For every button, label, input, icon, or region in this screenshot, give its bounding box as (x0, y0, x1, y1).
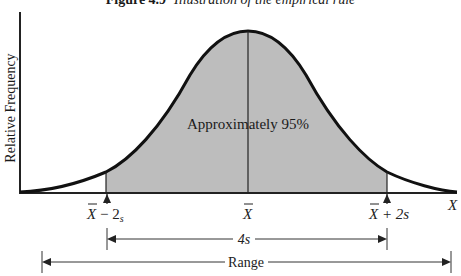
range-right-arrowhead (442, 258, 451, 266)
x-axis-label: X (447, 197, 458, 213)
shaded-percentage-label: Approximately 95% (187, 116, 309, 132)
span-4s-label: 4s (238, 232, 251, 247)
normal-curve-plot: X − 2s X X + 2s X Approximately 95% 4s (0, 0, 461, 276)
right-tick-label: X + 2s (368, 206, 409, 222)
shaded-95-region (106, 31, 387, 193)
right-tick-arrow (383, 194, 391, 204)
span-4s-right-arrowhead (378, 235, 387, 243)
span-4s-left-arrowhead (107, 235, 116, 243)
range-label: Range (228, 255, 264, 270)
center-tick-label: X (242, 206, 253, 222)
empirical-rule-figure: Figure 4.9Illustration of the empirical … (0, 0, 461, 276)
left-tick-label: X − 2s (86, 206, 124, 224)
left-tick-arrow (103, 194, 111, 204)
range-left-arrowhead (42, 258, 51, 266)
